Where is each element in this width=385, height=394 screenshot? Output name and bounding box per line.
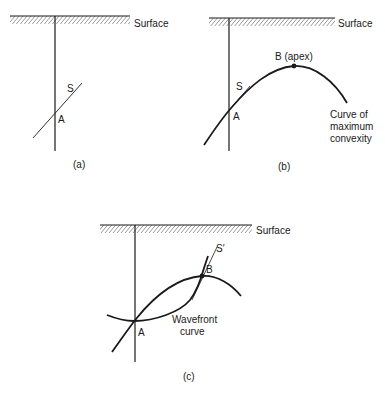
- diagram-canvas: Surface S A (a) Surface B (apex) S A Cur…: [0, 0, 385, 394]
- reflector-segment-s: [33, 83, 82, 138]
- label-a: A: [138, 327, 145, 338]
- surface-label: Surface: [134, 18, 169, 29]
- caption-b: (b): [278, 161, 290, 172]
- label-b: B: [206, 264, 213, 275]
- surface-label: Surface: [338, 18, 373, 29]
- tangent-line-s-prime: [192, 247, 217, 300]
- curve-label-line3: convexity: [330, 133, 372, 144]
- label-b-apex: B (apex): [275, 51, 313, 62]
- max-convexity-curve: [204, 66, 347, 145]
- apex-point-b: [292, 64, 297, 69]
- panel-b: Surface B (apex) S A Curve of maximum co…: [204, 18, 373, 172]
- label-s: S: [236, 81, 243, 92]
- label-a: A: [233, 111, 240, 122]
- surface-hatch: [100, 225, 252, 233]
- caption-c: (c): [183, 371, 195, 382]
- panel-c: Surface S′ B A Wavefront curve (c): [100, 225, 291, 382]
- wavefront-label-line1: Wavefront: [172, 314, 217, 325]
- surface-hatch: [209, 18, 335, 26]
- curve-label-line1: Curve of: [330, 109, 368, 120]
- wavefront-label-line2: curve: [180, 326, 205, 337]
- surface-label: Surface: [256, 225, 291, 236]
- label-a: A: [58, 114, 65, 125]
- surface-hatch: [10, 16, 130, 24]
- panel-a: Surface S A (a): [10, 16, 169, 170]
- wavefront-curve: [107, 256, 208, 321]
- curve-label-line2: maximum: [330, 121, 373, 132]
- label-s-prime: S′: [216, 243, 225, 254]
- point-b: [200, 274, 205, 279]
- label-s: S: [67, 83, 74, 94]
- caption-a: (a): [73, 159, 85, 170]
